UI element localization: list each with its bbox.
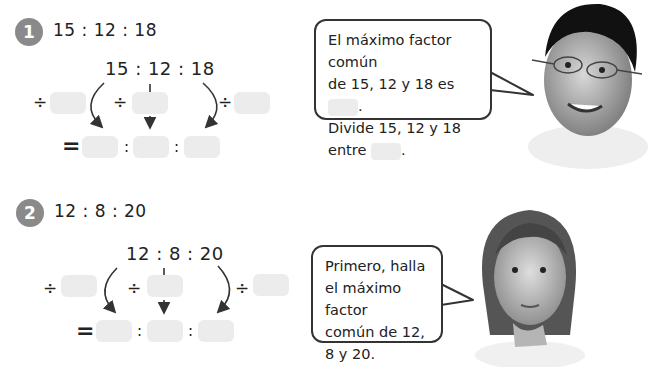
speech-line: común de 12, xyxy=(325,321,429,343)
speech-line: el máximo factor xyxy=(325,277,429,321)
girl-photo xyxy=(475,205,585,363)
speech-line: 8 y 20. xyxy=(325,343,429,365)
speech-bubble: Primero, halla el máximo factor común de… xyxy=(311,245,443,343)
speech-line: Primero, halla xyxy=(325,255,429,277)
